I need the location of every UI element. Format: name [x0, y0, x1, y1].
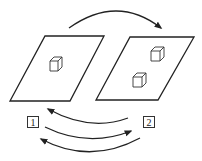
- left-plane: [10, 36, 104, 101]
- state-2-label: 2: [143, 116, 155, 128]
- cube-icon: [133, 73, 146, 87]
- middle-arrow: [45, 127, 131, 139]
- upper-return-arrow: [48, 109, 128, 123]
- right-plane: [96, 37, 194, 100]
- top-arrow: [69, 11, 161, 28]
- cube-icon: [151, 47, 164, 61]
- state-1-label: 1: [27, 116, 39, 128]
- diagram-canvas: [0, 0, 202, 161]
- cube-icon: [50, 57, 62, 71]
- lower-return-arrow: [41, 138, 140, 152]
